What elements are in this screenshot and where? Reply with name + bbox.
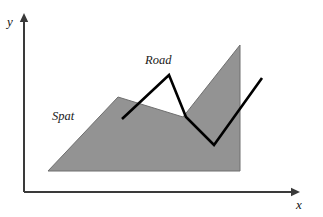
x-axis-arrowhead-icon bbox=[291, 188, 300, 196]
y-axis-arrowhead-icon bbox=[20, 13, 28, 22]
road-label: Road bbox=[144, 53, 172, 67]
figure-canvas: y x Spat Road bbox=[0, 0, 323, 217]
diagram-svg: y x Spat Road bbox=[0, 0, 323, 217]
y-axis-label: y bbox=[5, 14, 13, 29]
x-axis-label: x bbox=[295, 197, 302, 212]
spat-region-label: Spat bbox=[52, 109, 75, 123]
spat-region-polygon bbox=[48, 45, 240, 171]
